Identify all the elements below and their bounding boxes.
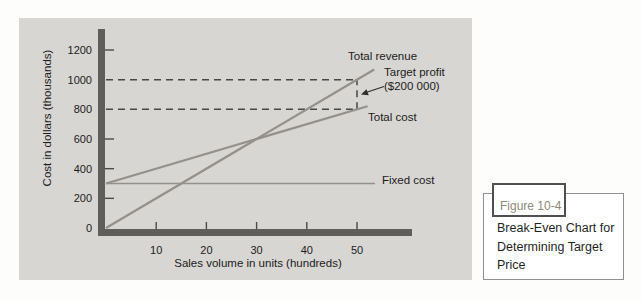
target-profit-annotation: Target profit ($200 000): [384, 65, 474, 93]
x-tick-label-50: 50: [351, 244, 363, 256]
figure-caption: Break-Even Chart for Determining Target …: [497, 219, 629, 275]
y-tick-label-400: 400: [74, 163, 92, 175]
x-tick-label-30: 30: [250, 244, 262, 256]
y-axis-bar: [98, 29, 105, 236]
target-profit-label: Target profit: [384, 65, 474, 79]
total-revenue-line: [106, 69, 374, 228]
y-tick-label-0: 0: [86, 222, 92, 234]
total-cost-line: [106, 106, 368, 183]
x-tick-label-40: 40: [301, 244, 313, 256]
target-profit-arrowhead: [361, 89, 369, 95]
fixed-cost-line-label: Fixed cost: [382, 174, 434, 186]
x-tick-label-10: 10: [150, 244, 162, 256]
figure-number: Figure 10-4: [500, 199, 561, 213]
y-tick-label-200: 200: [74, 192, 92, 204]
x-axis-label: Sales volume in units (hundreds): [172, 257, 344, 269]
y-tick-label-800: 800: [74, 103, 92, 115]
target-profit-value: ($200 000): [384, 79, 474, 93]
y-tick-label-600: 600: [74, 133, 92, 145]
total-revenue-line-label: Total revenue: [348, 50, 417, 62]
x-tick-label-20: 20: [200, 244, 212, 256]
figure-number-box: Figure 10-4: [492, 183, 566, 217]
x-axis-bar: [98, 229, 412, 236]
y-axis-label: Cost in dollars (thousands): [41, 30, 53, 206]
page: 0200400600800100012001020304050 Cost in …: [0, 0, 642, 301]
y-tick-label-1000: 1000: [68, 74, 92, 86]
y-tick-label-1200: 1200: [68, 44, 92, 56]
total-cost-line-label: Total cost: [368, 111, 417, 123]
